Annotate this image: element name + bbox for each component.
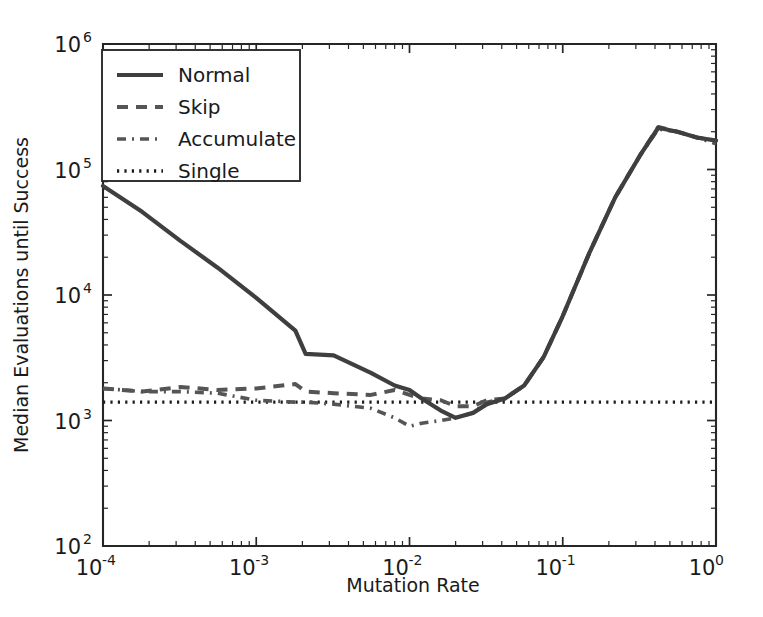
x-tick-label: 10-1: [535, 552, 575, 580]
chart-figure: 10-410-310-210-1100 102103104105106 Muta…: [0, 0, 763, 617]
y-tick-label: 103: [54, 406, 92, 434]
svg-text:-3: -3: [255, 552, 269, 568]
x-tick-label: 10-4: [76, 552, 116, 580]
svg-text:10: 10: [54, 535, 81, 559]
y-axis-title: Median Evaluations until Success: [10, 137, 32, 453]
svg-text:-4: -4: [102, 552, 116, 568]
svg-text:10: 10: [54, 159, 81, 183]
svg-text:10: 10: [76, 556, 103, 580]
svg-text:3: 3: [83, 406, 92, 422]
legend-label-normal: Normal: [178, 63, 250, 87]
svg-text:10: 10: [229, 556, 256, 580]
svg-text:4: 4: [83, 280, 92, 296]
svg-text:-2: -2: [409, 552, 423, 568]
svg-text:10: 10: [54, 33, 81, 57]
chart-legend: NormalSkipAccumulateSingle: [102, 50, 300, 183]
y-tick-label: 105: [54, 155, 92, 183]
line-chart-svg: 10-410-310-210-1100 102103104105106 Muta…: [0, 0, 763, 617]
svg-text:10: 10: [535, 556, 562, 580]
svg-text:10: 10: [689, 556, 716, 580]
x-tick-label: 100: [689, 552, 724, 580]
y-axis-tick-labels: 102103104105106: [54, 29, 92, 559]
svg-text:0: 0: [715, 552, 724, 568]
legend-label-accumulate: Accumulate: [178, 127, 296, 151]
x-axis-title: Mutation Rate: [346, 574, 480, 596]
svg-text:6: 6: [83, 29, 92, 45]
legend-label-single: Single: [178, 159, 239, 183]
svg-text:5: 5: [83, 155, 92, 171]
y-tick-label: 104: [54, 280, 92, 308]
svg-text:-1: -1: [562, 552, 576, 568]
x-tick-label: 10-3: [229, 552, 269, 580]
svg-text:2: 2: [83, 531, 92, 547]
svg-text:10: 10: [54, 410, 81, 434]
y-tick-label: 102: [54, 531, 92, 559]
legend-label-skip: Skip: [178, 95, 221, 119]
y-tick-label: 106: [54, 29, 92, 57]
svg-text:10: 10: [54, 284, 81, 308]
